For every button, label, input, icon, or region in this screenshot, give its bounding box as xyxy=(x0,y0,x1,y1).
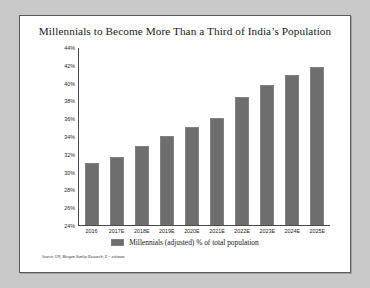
bar-slot xyxy=(305,48,330,225)
bar-2019E[interactable] xyxy=(160,136,174,225)
y-axis-tick-label: 42% xyxy=(64,63,75,69)
y-axis-tick-label: 44% xyxy=(64,45,75,51)
bar-2023E[interactable] xyxy=(260,85,274,225)
y-axis-tick-label: 28% xyxy=(64,187,75,193)
bar-2022E[interactable] xyxy=(235,97,249,225)
bar-slot xyxy=(179,48,204,225)
chart-legend: Millennials (adjusted) % of total popula… xyxy=(20,238,350,247)
bar-2024E[interactable] xyxy=(285,75,299,225)
bar-2025E[interactable] xyxy=(310,67,324,225)
x-axis-tick-label: 2023E xyxy=(255,228,280,234)
bar-2018E[interactable] xyxy=(135,146,149,225)
y-axis-tick-label: 38% xyxy=(64,98,75,104)
legend-swatch-millennials xyxy=(111,239,124,246)
bar-slot xyxy=(255,48,280,225)
bar-slot xyxy=(280,48,305,225)
bar-slot xyxy=(79,48,104,225)
bar-slot xyxy=(104,48,129,225)
x-axis-tick-label: 2025E xyxy=(305,228,330,234)
legend-label-millennials: Millennials (adjusted) % of total popula… xyxy=(129,238,259,247)
x-axis-tick-label: 2020E xyxy=(179,228,204,234)
x-axis-tick-label: 2018E xyxy=(129,228,154,234)
y-axis-tick-label: 40% xyxy=(64,81,75,87)
bar-2017E[interactable] xyxy=(110,157,124,225)
bar-slot xyxy=(129,48,154,225)
y-axis: 44%42%40%38%36%34%32%30%28%26%24% xyxy=(51,48,78,226)
bar-slot xyxy=(154,48,179,225)
source-note: Source: UN, Morgan Stanley Research; E =… xyxy=(42,255,125,259)
y-axis-tick-label: 32% xyxy=(64,152,75,158)
y-axis-tick-label: 36% xyxy=(64,116,75,122)
bar-2020E[interactable] xyxy=(185,127,199,225)
bar-slot xyxy=(204,48,229,225)
chart-title: Millennials to Become More Than a Third … xyxy=(20,25,350,37)
x-axis-tick-label: 2019E xyxy=(154,228,179,234)
bar-series xyxy=(79,48,330,225)
bar-slot xyxy=(230,48,255,225)
plot-area: 44%42%40%38%36%34%32%30%28%26%24% xyxy=(51,48,330,226)
x-axis-tick-label: 2021E xyxy=(204,228,229,234)
x-axis-tick-label: 2017E xyxy=(104,228,129,234)
y-axis-tick-label: 24% xyxy=(64,223,75,229)
y-axis-tick-label: 26% xyxy=(64,205,75,211)
x-axis-tick-label: 2022E xyxy=(230,228,255,234)
y-axis-tick-label: 34% xyxy=(64,134,75,140)
x-axis-line xyxy=(78,225,330,226)
bar-2021E[interactable] xyxy=(210,118,224,225)
x-axis-tick-label: 2016 xyxy=(79,228,104,234)
chart-card: Millennials to Become More Than a Third … xyxy=(19,15,351,273)
x-axis: 20162017E2018E2019E2020E2021E2022E2023E2… xyxy=(79,228,330,234)
x-axis-tick-label: 2024E xyxy=(280,228,305,234)
y-axis-tick-label: 30% xyxy=(64,170,75,176)
bar-2016[interactable] xyxy=(85,163,99,225)
